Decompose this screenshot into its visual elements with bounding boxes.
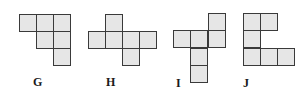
net-j: J (0, 0, 305, 94)
net-square (277, 48, 295, 66)
net-square (260, 48, 278, 66)
cube-net-diagram: G H I J (0, 0, 305, 94)
net-square (243, 48, 261, 66)
net-square (243, 13, 261, 31)
net-square (260, 13, 278, 31)
net-square (243, 30, 261, 48)
net-label-j: J (243, 77, 249, 89)
